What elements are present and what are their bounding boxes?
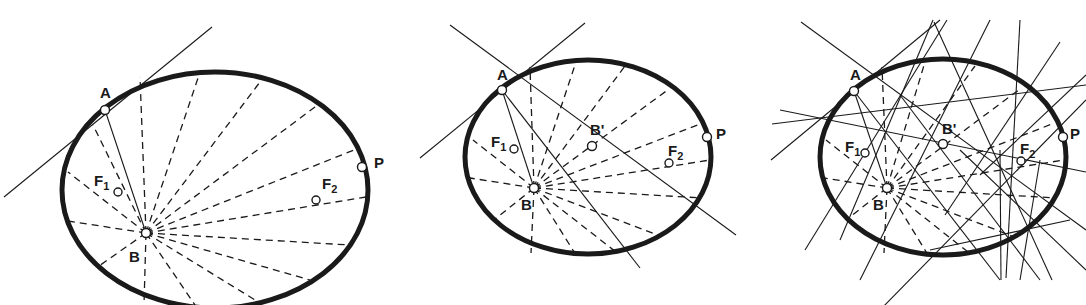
dashed-ray	[146, 233, 260, 303]
label-p: P	[716, 125, 726, 142]
dashed-ray	[534, 188, 702, 198]
point-f1-marker	[510, 145, 518, 153]
dashed-ray	[146, 233, 195, 305]
construction-line	[105, 110, 146, 233]
point-b-marker	[142, 229, 151, 238]
label-f1: F1	[94, 172, 109, 192]
construction-line	[880, 100, 1086, 305]
point-p-marker	[358, 163, 367, 172]
dashed-ray	[824, 178, 887, 188]
dashed-ray	[887, 66, 975, 188]
panel-1-radial-fan: ABF1F2P	[4, 27, 384, 305]
dashed-ray	[470, 178, 534, 188]
dashed-ray	[140, 77, 146, 233]
construction-line	[945, 42, 1060, 215]
label-a: A	[100, 84, 111, 101]
point-f2-marker	[312, 196, 320, 204]
point-p-marker	[703, 133, 712, 142]
label-b: B	[521, 196, 532, 213]
label-b-prime: B'	[590, 121, 604, 138]
dashed-ray	[887, 62, 925, 188]
label-b: B	[873, 196, 884, 213]
dashed-ray	[146, 75, 199, 233]
dashed-ray	[146, 197, 366, 233]
dashed-ray	[887, 188, 968, 252]
label-f2: F2	[322, 175, 337, 195]
point-b-prime-marker	[588, 142, 597, 151]
point-b-marker	[530, 184, 539, 193]
label-a: A	[850, 66, 861, 83]
construction-line	[840, 20, 933, 240]
ellipse-construction-diagram: ABF1F2P ABB'F1F2P ABB'F1F2P	[0, 0, 1086, 305]
dashed-ray	[68, 221, 146, 233]
point-a-marker	[101, 106, 110, 115]
dashed-ray	[146, 233, 310, 280]
point-a-marker	[850, 87, 859, 96]
dashed-ray	[534, 89, 669, 188]
label-p: P	[374, 154, 384, 171]
label-f1: F1	[845, 138, 860, 158]
dashed-ray	[146, 233, 350, 245]
label-p: P	[1070, 125, 1080, 142]
panel-3-many-reflections: ABB'F1F2P	[771, 20, 1086, 305]
point-b-prime-marker	[939, 140, 948, 149]
point-a-marker	[498, 86, 507, 95]
dashed-ray	[534, 62, 576, 188]
dashed-ray	[534, 160, 710, 188]
label-b-prime: B'	[942, 120, 956, 137]
point-f1-marker	[114, 188, 122, 196]
dashed-ray	[534, 188, 616, 252]
point-b-marker	[883, 184, 892, 193]
label-b: B	[129, 248, 140, 265]
point-f2-marker	[665, 159, 673, 167]
construction-line	[1000, 150, 1001, 280]
dashed-ray	[534, 66, 625, 188]
point-f1-marker	[861, 149, 869, 157]
dashed-ray	[146, 107, 315, 233]
point-f2-marker	[1017, 157, 1025, 165]
label-a: A	[497, 66, 508, 83]
construction-line	[502, 90, 534, 188]
panel-2-first-reflection: ABB'F1F2P	[420, 23, 736, 268]
point-p-marker	[1059, 133, 1068, 142]
label-f1: F1	[491, 133, 506, 153]
